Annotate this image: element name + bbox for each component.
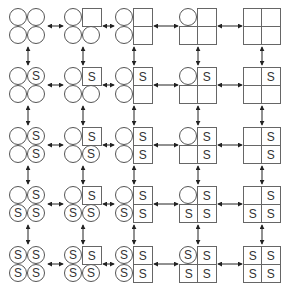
circle-node: S xyxy=(82,264,100,282)
state-cell-r4-c1: SSS xyxy=(9,186,47,223)
node-label: S xyxy=(249,250,257,262)
square-node xyxy=(82,8,102,27)
node-label: S xyxy=(32,267,40,279)
circle-node xyxy=(64,67,82,85)
circle-node: S xyxy=(115,264,133,282)
node-label: S xyxy=(87,207,95,219)
node-label: S xyxy=(267,268,275,280)
square-node: S xyxy=(133,246,153,265)
circle-node xyxy=(9,145,27,163)
node-label: S xyxy=(249,268,257,280)
circle-node xyxy=(115,26,133,44)
node-label: S xyxy=(88,71,96,83)
node-label: S xyxy=(203,190,211,202)
circle-node: S xyxy=(115,246,133,264)
node-label: S xyxy=(267,149,275,161)
state-cell-r3-c3: SS xyxy=(115,127,153,164)
node-label: S xyxy=(267,71,275,83)
node-label: S xyxy=(69,267,77,279)
square-node: S xyxy=(133,264,153,283)
circle-node: S xyxy=(27,145,45,163)
square-node: S xyxy=(243,246,263,265)
state-cell-r3-c4: SS xyxy=(179,127,217,164)
node-label: S xyxy=(120,207,128,219)
circle-node xyxy=(82,85,100,103)
square-node xyxy=(261,8,281,27)
square-node: S xyxy=(261,186,281,205)
state-cell-r1-c5 xyxy=(243,8,281,45)
square-node: S xyxy=(133,127,153,146)
node-label: S xyxy=(32,189,40,201)
circle-node: S xyxy=(9,246,27,264)
node-label: S xyxy=(139,131,147,143)
square-node: S xyxy=(82,127,102,146)
circle-node xyxy=(9,67,27,85)
square-node: S xyxy=(197,145,217,164)
square-node xyxy=(243,8,263,27)
circle-node xyxy=(179,8,197,26)
circle-node xyxy=(115,127,133,145)
circle-node xyxy=(115,67,133,85)
circle-node: S xyxy=(27,204,45,222)
node-label: S xyxy=(267,250,275,262)
node-label: S xyxy=(120,267,128,279)
node-label: S xyxy=(185,268,193,280)
circle-node: S xyxy=(82,204,100,222)
square-node: S xyxy=(261,264,281,283)
node-label: S xyxy=(139,190,147,202)
node-label: S xyxy=(184,249,192,261)
square-node: S xyxy=(261,127,281,146)
circle-node: S xyxy=(9,204,27,222)
node-label: S xyxy=(32,130,40,142)
node-label: S xyxy=(203,71,211,83)
node-label: S xyxy=(267,131,275,143)
circle-node: S xyxy=(115,204,133,222)
square-node xyxy=(243,26,263,45)
state-cell-r4-c3: SSS xyxy=(115,186,153,223)
square-node: S xyxy=(82,67,102,86)
state-cell-r1-c4 xyxy=(179,8,217,45)
state-cell-r3-c5: SS xyxy=(243,127,281,164)
circle-node xyxy=(9,26,27,44)
square-node: S xyxy=(243,204,263,223)
node-label: S xyxy=(139,149,147,161)
circle-node xyxy=(64,186,82,204)
circle-node xyxy=(82,26,100,44)
node-label: S xyxy=(203,268,211,280)
circle-node: S xyxy=(64,204,82,222)
circle-node: S xyxy=(64,264,82,282)
state-cell-r5-c4: SSSS xyxy=(179,246,217,283)
circle-node xyxy=(115,186,133,204)
node-label: S xyxy=(14,249,22,261)
node-label: S xyxy=(32,249,40,261)
square-node: S xyxy=(197,127,217,146)
circle-node: S xyxy=(179,246,197,264)
circle-node xyxy=(9,85,27,103)
node-label: S xyxy=(120,249,128,261)
node-label: S xyxy=(185,208,193,220)
square-node xyxy=(197,85,217,104)
node-label: S xyxy=(203,131,211,143)
circle-node xyxy=(64,145,82,163)
state-cell-r5-c2: SSSS xyxy=(64,246,102,283)
circle-node xyxy=(27,8,45,26)
node-label: S xyxy=(203,149,211,161)
circle-node xyxy=(27,85,45,103)
square-node xyxy=(133,85,153,104)
square-node: S xyxy=(261,204,281,223)
node-label: S xyxy=(87,267,95,279)
square-node: S xyxy=(133,204,153,223)
square-node: S xyxy=(197,67,217,86)
state-cell-r4-c4: SSS xyxy=(179,186,217,223)
state-cell-r4-c5: SSS xyxy=(243,186,281,223)
circle-node xyxy=(64,85,82,103)
square-node: S xyxy=(197,246,217,265)
node-label: S xyxy=(267,208,275,220)
square-node xyxy=(243,186,263,205)
circle-node xyxy=(115,8,133,26)
square-node xyxy=(243,67,263,86)
node-label: S xyxy=(69,207,77,219)
state-cell-r1-c3 xyxy=(115,8,153,45)
square-node: S xyxy=(261,67,281,86)
circle-node: S xyxy=(27,67,45,85)
